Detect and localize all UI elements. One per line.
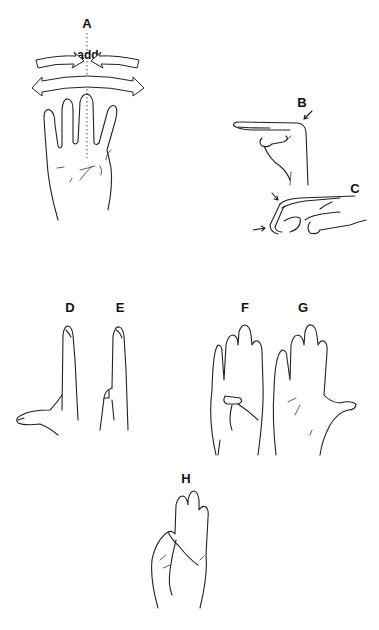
panel-a-hand-drawing [32, 33, 144, 220]
hand-diagram [0, 0, 379, 630]
panel-e-hand-drawing [100, 327, 128, 430]
panel-c-hand-drawing [253, 193, 366, 234]
panel-g-hand-drawing [273, 325, 356, 455]
panel-h-hand-drawing [152, 491, 209, 608]
panel-b-hand-drawing [234, 111, 312, 185]
panel-d-hand-drawing [17, 326, 78, 435]
panel-f-hand-drawing [211, 325, 263, 455]
